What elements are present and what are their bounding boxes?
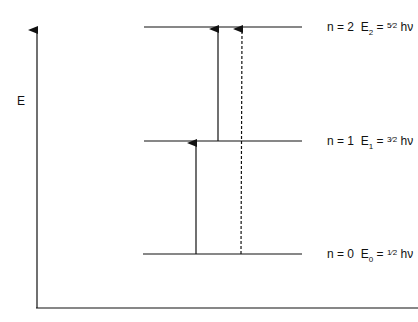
equals-sign: =	[377, 247, 384, 261]
energy-subscript: 0	[369, 255, 373, 264]
fraction: 1⁄2	[387, 246, 397, 260]
h-nu: hν	[400, 247, 413, 261]
equals-sign: =	[377, 134, 384, 148]
energy-subscript: 1	[369, 142, 373, 151]
h-nu: hν	[400, 20, 413, 34]
fraction: 5⁄2	[387, 19, 397, 33]
quantum-number: n = 0	[327, 247, 354, 261]
quantum-number: n = 1	[327, 134, 354, 148]
transition-0-2-dashed-arrow	[241, 29, 242, 254]
fraction: 3⁄2	[387, 133, 397, 147]
quantum-number: n = 2	[327, 20, 354, 34]
energy-symbol: E	[361, 247, 369, 261]
energy-subscript: 2	[369, 28, 373, 37]
level-label-n0: n = 0 E0 = 1⁄2 hν	[327, 247, 413, 263]
equals-sign: =	[377, 20, 384, 34]
level-label-n2: n = 2 E2 = 5⁄2 hν	[327, 20, 413, 36]
energy-symbol: E	[361, 134, 369, 148]
y-axis-label: E	[17, 94, 25, 108]
energy-symbol: E	[361, 20, 369, 34]
h-nu: hν	[400, 134, 413, 148]
energy-diagram	[0, 0, 418, 322]
level-label-n1: n = 1 E1 = 3⁄2 hν	[327, 134, 413, 150]
